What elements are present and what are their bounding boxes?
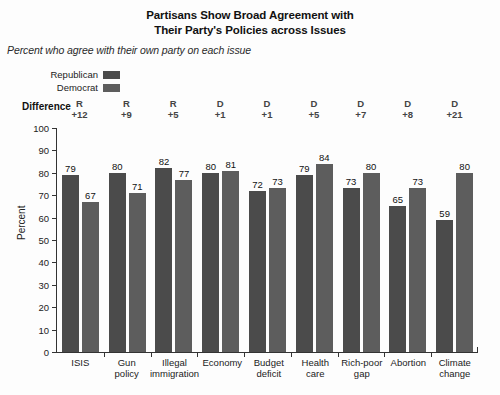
chart-title-line-2: Their Party's Policies across Issues — [0, 23, 500, 38]
difference-party: R — [56, 98, 103, 109]
x-axis-tick-label: ISIS — [57, 357, 103, 379]
bar-group: 7273 — [244, 128, 291, 352]
bar-pair: 5980 — [431, 128, 478, 352]
y-axis-tick-mark — [52, 330, 56, 331]
bar-republican — [436, 220, 453, 352]
chart-title: Partisans Show Broad Agreement with Thei… — [0, 8, 500, 38]
x-axis-tick-label: Rich-poorgap — [339, 357, 385, 379]
bar-value-label: 73 — [346, 176, 357, 187]
y-axis-tick-mark — [52, 240, 56, 241]
bar-column: 79 — [62, 128, 79, 352]
bar-value-label: 73 — [413, 176, 424, 187]
bar-democrat — [456, 173, 473, 352]
chart-legend: Republican Democrat — [0, 68, 120, 94]
x-axis-tick-line: care — [292, 368, 338, 379]
bar-value-label: 77 — [179, 168, 190, 179]
y-axis-label: Percent — [16, 206, 27, 240]
bar-republican — [296, 175, 313, 352]
bar-value-label: 80 — [112, 161, 123, 172]
x-axis-tick-line: Health — [292, 357, 338, 368]
difference-value: +1 — [244, 109, 291, 120]
bar-republican — [249, 191, 266, 352]
bar-column: 84 — [316, 128, 333, 352]
bar-pair: 7380 — [338, 128, 385, 352]
x-axis-tick-label: Climatechange — [432, 357, 478, 379]
bar-column: 65 — [389, 128, 406, 352]
y-axis-tick-mark — [52, 352, 56, 353]
difference-value: +7 — [337, 109, 384, 120]
difference-party: D — [197, 98, 244, 109]
bar-group: 8081 — [197, 128, 244, 352]
difference-value: +9 — [103, 109, 150, 120]
x-axis-ticks: ISISGunpolicyIllegalimmigrationEconomyBu… — [57, 357, 478, 379]
bar-democrat — [316, 164, 333, 352]
difference-value: +5 — [150, 109, 197, 120]
x-axis-tick-line: Abortion — [385, 357, 431, 368]
bar-democrat — [82, 202, 99, 352]
bar-value-label: 80 — [459, 161, 470, 172]
difference-cell: D+8 — [384, 98, 431, 120]
legend-swatch-democrat — [103, 84, 120, 92]
bar-column: 80 — [202, 128, 219, 352]
bar-groups: 796780718277808172737984738065735980 — [57, 128, 478, 352]
bar-pair: 8071 — [104, 128, 151, 352]
bar-column: 82 — [155, 128, 172, 352]
y-axis-tick-mark — [52, 285, 56, 286]
difference-value: +1 — [197, 109, 244, 120]
difference-cell: R+9 — [103, 98, 150, 120]
x-axis-tick-line: Economy — [199, 357, 245, 368]
bar-value-label: 80 — [205, 161, 216, 172]
difference-cell: D+7 — [337, 98, 384, 120]
x-axis-tick-line: Climate — [432, 357, 478, 368]
bar-republican — [343, 188, 360, 352]
difference-party: D — [244, 98, 291, 109]
difference-cell: D+1 — [197, 98, 244, 120]
x-axis-tick-line: Illegal — [150, 357, 199, 368]
bar-democrat — [409, 188, 426, 352]
difference-value: +12 — [56, 109, 103, 120]
bar-group: 6573 — [384, 128, 431, 352]
bar-republican — [202, 173, 219, 352]
x-axis-tick-line: Gun — [103, 357, 149, 368]
x-axis-tick-label: Gunpolicy — [103, 357, 149, 379]
bar-group: 8277 — [151, 128, 198, 352]
bar-column: 77 — [175, 128, 192, 352]
bar-value-label: 73 — [272, 176, 283, 187]
bar-column: 80 — [456, 128, 473, 352]
difference-party: D — [431, 98, 478, 109]
bar-pair: 6573 — [384, 128, 431, 352]
bar-republican — [62, 175, 79, 352]
bar-value-label: 80 — [366, 161, 377, 172]
bar-value-label: 79 — [65, 163, 76, 174]
bar-democrat — [129, 193, 146, 352]
bar-column: 73 — [269, 128, 286, 352]
bar-value-label: 65 — [393, 194, 404, 205]
bar-group: 7967 — [57, 128, 104, 352]
bar-column: 73 — [409, 128, 426, 352]
y-axis-tick-mark — [52, 195, 56, 196]
y-axis-tick-mark — [52, 307, 56, 308]
legend-label-republican: Republican — [50, 69, 98, 80]
y-axis-tick-mark — [52, 150, 56, 151]
bar-group: 7984 — [291, 128, 338, 352]
x-axis-tick-line: deficit — [246, 368, 292, 379]
bar-group: 5980 — [431, 128, 478, 352]
bar-democrat — [363, 173, 380, 352]
bar-democrat — [222, 171, 239, 352]
difference-cell: R+12 — [56, 98, 103, 120]
difference-party: D — [384, 98, 431, 109]
y-axis-tick-mark — [52, 218, 56, 219]
bar-column: 80 — [109, 128, 126, 352]
x-axis-tick-line: Rich-poor — [339, 357, 385, 368]
difference-cell: D+5 — [290, 98, 337, 120]
legend-item-democrat: Democrat — [0, 81, 120, 94]
difference-cell: D+21 — [431, 98, 478, 120]
difference-party: D — [337, 98, 384, 109]
bar-column: 72 — [249, 128, 266, 352]
bar-column: 79 — [296, 128, 313, 352]
bar-column: 67 — [82, 128, 99, 352]
x-axis-tick-line: policy — [103, 368, 149, 379]
bar-republican — [155, 168, 172, 352]
difference-value: +21 — [431, 109, 478, 120]
difference-party: R — [103, 98, 150, 109]
